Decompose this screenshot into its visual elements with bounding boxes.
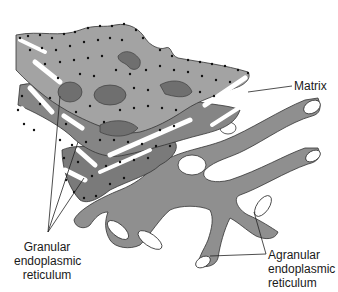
label-granular-er: Granular endoplasmic reticulum [14,240,80,282]
granular-er-stack [16,24,249,201]
label-matrix: Matrix [294,79,327,93]
agranular-line2: endoplasmic [268,262,335,276]
granular-line3: reticulum [14,268,80,282]
matrix-text: Matrix [294,79,327,93]
granular-line1: Granular [14,240,80,254]
agranular-line1: Agranular [268,248,335,262]
matrix-leader [248,86,292,92]
granular-line2: endoplasmic [14,254,80,268]
agranular-line3: reticulum [268,276,335,290]
label-agranular-er: Agranular endoplasmic reticulum [268,248,335,290]
